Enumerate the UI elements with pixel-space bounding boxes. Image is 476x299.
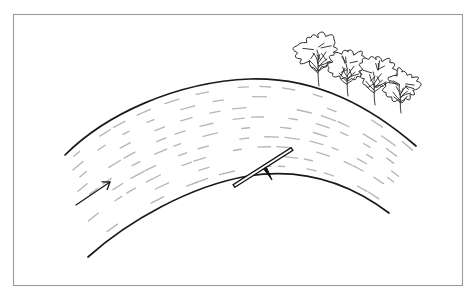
- bedding-dash: [260, 86, 271, 87]
- bedding-dash: [242, 128, 250, 129]
- sketch-root: Geologic Field Sketch Pen-and-ink field …: [0, 0, 476, 299]
- tree-twig: [346, 57, 347, 63]
- sketch-canvas: [0, 0, 476, 299]
- bedding-dash: [238, 87, 248, 88]
